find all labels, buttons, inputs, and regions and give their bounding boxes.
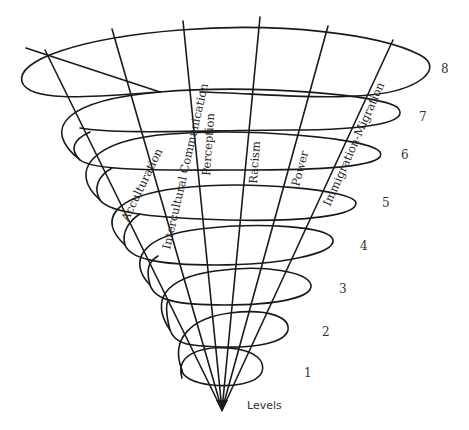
spiral-level-3 (148, 256, 311, 330)
axis-label-racism: Racism (246, 141, 263, 185)
apex-point (216, 400, 228, 412)
axis-line-perception (183, 21, 222, 410)
level-number-5: 5 (382, 196, 390, 210)
level-number-2: 2 (322, 325, 330, 339)
axis-line-racism (222, 17, 260, 410)
spiral-cone-diagram: Acculturation Intercultural Communicatio… (0, 0, 469, 430)
level-number-6: 6 (401, 148, 409, 162)
spiral-tail (26, 48, 160, 92)
level-number-1: 1 (304, 366, 312, 380)
level-number-4: 4 (360, 239, 368, 253)
spiral-level-8 (22, 28, 430, 97)
level-number-3: 3 (339, 282, 347, 296)
level-number-8: 8 (441, 62, 449, 76)
axis-label-acculturation: Acculturation (118, 145, 166, 224)
level-number-7: 7 (419, 110, 427, 124)
axis-label-immigration: Immigration-Migration (320, 80, 388, 209)
diagram-canvas: Acculturation Intercultural Communicatio… (0, 0, 469, 430)
spiral-loops (22, 28, 430, 386)
levels-label: Levels (247, 399, 282, 412)
spiral-level-1 (181, 348, 263, 386)
